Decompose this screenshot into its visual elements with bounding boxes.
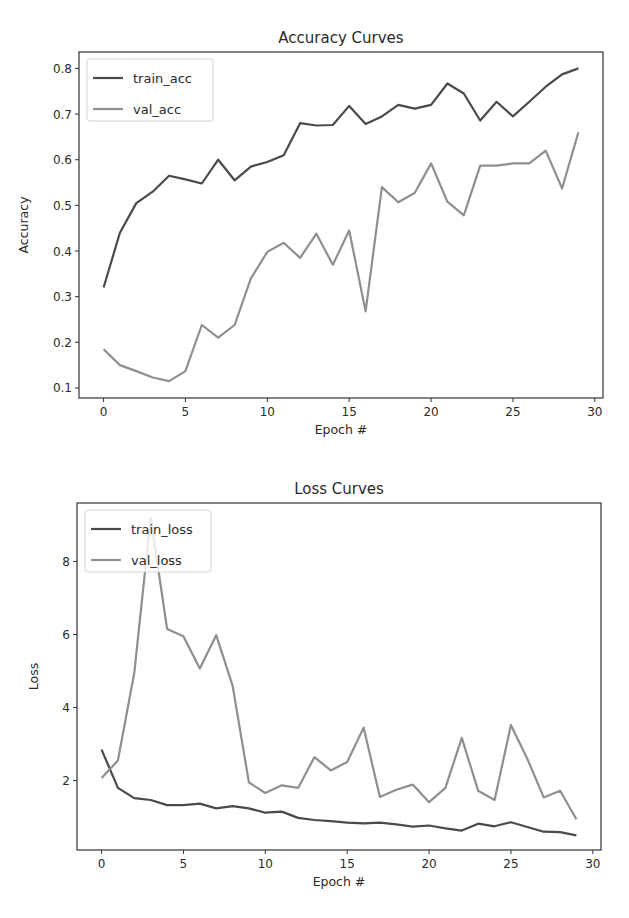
legend-label-val_loss: val_loss [131,553,182,568]
y-tick-label: 2 [62,774,70,788]
x-tick-label: 15 [340,857,355,871]
series-line-train_loss [102,750,577,836]
accuracy-chart: Accuracy Curves0510152025300.10.20.30.40… [0,0,629,460]
y-tick-label: 4 [62,701,70,715]
x-tick-label: 30 [587,405,602,419]
y-tick-label: 8 [62,555,70,569]
y-tick-label: 0.7 [53,108,72,122]
y-tick-label: 0.8 [53,62,72,76]
legend-label-val_acc: val_acc [133,102,181,117]
x-tick-label: 0 [98,857,106,871]
x-tick-label: 10 [258,857,273,871]
x-tick-label: 25 [503,857,518,871]
y-tick-label: 0.4 [53,245,72,259]
x-axis-label: Epoch # [313,874,366,889]
x-tick-label: 5 [182,405,190,419]
x-tick-label: 10 [260,405,275,419]
legend: train_lossval_loss [85,510,211,572]
legend-label-train_acc: train_acc [133,71,192,86]
x-tick-label: 15 [342,405,357,419]
y-axis-label: Loss [26,663,41,690]
x-tick-label: 20 [423,405,438,419]
y-tick-label: 0.2 [53,336,72,350]
y-tick-label: 0.1 [53,381,72,395]
x-axis-label: Epoch # [315,422,368,437]
legend-label-train_loss: train_loss [131,522,193,537]
x-tick-label: 20 [421,857,436,871]
chart-title: Loss Curves [294,480,384,498]
series-line-val_acc [104,132,579,381]
x-tick-label: 30 [585,857,600,871]
y-tick-label: 0.6 [53,153,72,167]
x-tick-label: 0 [100,405,108,419]
loss-chart: Loss Curves0510152025302468Epoch #Losstr… [0,460,629,918]
y-tick-label: 0.3 [53,290,72,304]
y-tick-label: 6 [62,628,70,642]
legend: train_accval_acc [87,59,213,121]
x-tick-label: 5 [180,857,188,871]
y-tick-label: 0.5 [53,199,72,213]
chart-title: Accuracy Curves [278,29,404,47]
y-axis-label: Accuracy [16,196,31,254]
x-tick-label: 25 [505,405,520,419]
